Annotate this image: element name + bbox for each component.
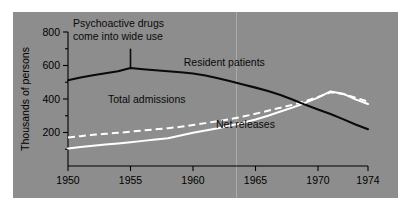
y-tick-label: 200 (42, 126, 60, 138)
y-axis-title: Thousands of persons (19, 47, 31, 151)
x-tick-label: 1960 (181, 174, 205, 186)
y-tick-label: 400 (42, 93, 60, 105)
chart-series-group (68, 68, 368, 148)
y-axis-ticks: 200400600800 (42, 26, 68, 149)
chart-figure: 200400600800 195019551960196519701974 Th… (0, 0, 410, 212)
x-tick-label: 1974 (356, 174, 380, 186)
annotation-line-1: Psychoactive drugs (73, 17, 164, 29)
x-axis-ticks: 195019551960196519701974 (56, 166, 380, 186)
x-tick-label: 1970 (306, 174, 330, 186)
y-tick-label: 600 (42, 59, 60, 71)
annotation-line-2: come into wide use (73, 30, 163, 42)
series-label-net-releases: Net releases (216, 118, 275, 130)
line-chart: 200400600800 195019551960196519701974 Th… (0, 0, 410, 212)
x-tick-label: 1965 (244, 174, 268, 186)
x-tick-label: 1955 (119, 174, 143, 186)
series-label-total-admissions: Total admissions (108, 93, 186, 105)
x-tick-label: 1950 (56, 174, 80, 186)
y-tick-label: 800 (42, 26, 60, 38)
series-label-resident-patients: Resident patients (184, 56, 265, 68)
